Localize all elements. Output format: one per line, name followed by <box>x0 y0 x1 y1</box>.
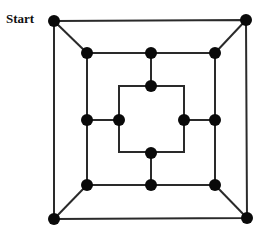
board-node <box>48 15 60 27</box>
board-node <box>48 213 60 225</box>
board-node <box>81 47 93 59</box>
board-node <box>209 179 221 191</box>
board-node <box>145 47 157 59</box>
connector-line <box>54 21 87 53</box>
connector-line <box>215 20 246 53</box>
board-node <box>81 114 93 126</box>
board-node <box>145 80 157 92</box>
inner-square <box>119 86 184 152</box>
board-node <box>178 114 190 126</box>
board-node <box>241 212 253 224</box>
board-node <box>209 114 221 126</box>
connector-line <box>215 185 247 218</box>
board-node <box>81 179 93 191</box>
board-node <box>113 114 125 126</box>
board-node <box>145 179 157 191</box>
board-node <box>209 47 221 59</box>
connector-line <box>54 185 87 219</box>
board-diagram <box>0 0 267 239</box>
board-node <box>240 14 252 26</box>
board-node <box>145 147 157 159</box>
